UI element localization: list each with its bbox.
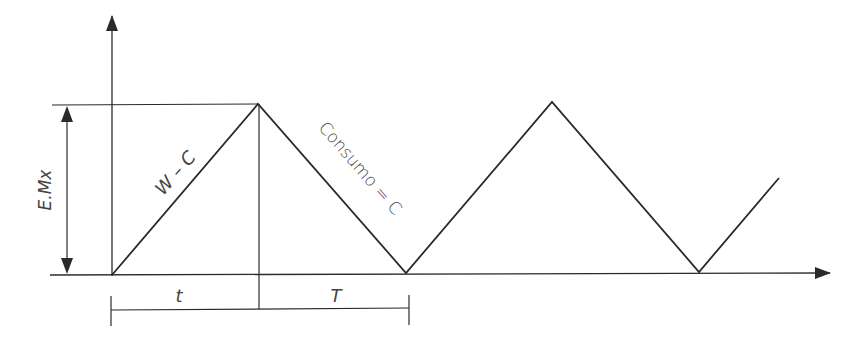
- max-stock-line: [52, 104, 258, 105]
- rise-slope-label: W – C: [151, 146, 200, 198]
- T-label: T: [331, 285, 344, 306]
- arrow-down-icon: [61, 258, 73, 274]
- inventory-waveform: [112, 102, 779, 275]
- inventory-diagram: E.Mx W – C Consumo = C t T: [0, 0, 867, 343]
- max-stock-label: E.Mx: [35, 169, 55, 211]
- arrow-up-icon: [61, 106, 73, 122]
- consumption-label: Consumo = C: [315, 118, 407, 219]
- x-axis: [50, 273, 830, 275]
- t-label: t: [175, 285, 183, 306]
- period-bracket: [111, 308, 409, 310]
